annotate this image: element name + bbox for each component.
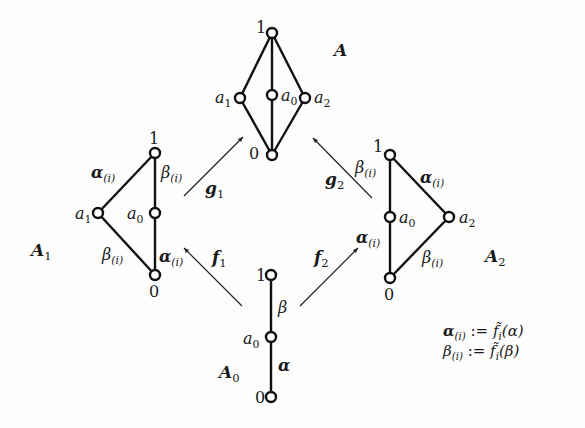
label-a0-top: 1 <box>256 268 266 284</box>
map-g2-sub: 2 <box>337 178 344 192</box>
label-a2-a2-sub: 2 <box>469 217 476 230</box>
label-a1-a1-sub: 1 <box>85 213 92 226</box>
map-label-g2: g2 <box>325 171 344 192</box>
label-a-a2: a2 <box>314 90 330 110</box>
edge-a1-mb-base: α <box>159 247 171 266</box>
edge-label-a2-mid-bottom: α(i) <box>356 230 380 250</box>
edge-a1-tl-sub: (i) <box>103 172 115 185</box>
edge-a2-mb-sub: (i) <box>368 237 380 250</box>
def-beta-lhs-sub: (i) <box>452 351 463 362</box>
lattice-a0-name-sub: 0 <box>232 371 239 385</box>
node-a-bottom <box>267 150 277 160</box>
map-f1-sub: 1 <box>219 256 226 270</box>
node-a2-a0 <box>385 212 395 222</box>
edge-a1-lb-sub: (i) <box>111 254 123 267</box>
node-a1-top <box>150 148 160 158</box>
label-a2-a0-base: a <box>399 208 409 227</box>
edge-label-a1-mid-bottom: α(i) <box>159 249 183 269</box>
map-g1-sub: 1 <box>217 187 224 201</box>
label-a2-a0: a0 <box>399 210 415 230</box>
node-a2-top <box>385 150 395 160</box>
label-a-a1-sub: 1 <box>225 97 232 110</box>
edge-label-a2-top-mid: β(i) <box>355 160 376 180</box>
arrow-f2 <box>300 248 358 306</box>
map-f2-sub: 2 <box>321 256 328 270</box>
edge-label-a1-top-mid: β(i) <box>161 165 182 185</box>
label-a-a1: a1 <box>215 90 231 110</box>
def-beta-lhs: β <box>443 342 452 360</box>
edge-a2-mb-base: α <box>356 228 368 247</box>
lattice-a2-name: A2 <box>485 248 506 269</box>
map-label-f2: f2 <box>314 249 329 270</box>
label-a0-a0: a0 <box>243 331 259 351</box>
lattice-a1-name: A1 <box>31 242 52 263</box>
label-a-a0-sub: 0 <box>291 95 298 108</box>
label-a-top: 1 <box>256 20 266 36</box>
node-a2-bottom <box>385 273 395 283</box>
node-a0-a0 <box>266 332 276 342</box>
label-a-bottom: 0 <box>249 146 259 162</box>
label-a0-a0-base: a <box>243 329 253 348</box>
definition-alpha: α(i) := f̃i(α) <box>443 324 524 342</box>
lattice-a2-name-base: A <box>485 246 498 266</box>
definition-beta: β(i) := f̃i(β) <box>443 344 519 362</box>
label-a1-a0-sub: 0 <box>137 213 144 226</box>
def-alpha-op: := <box>471 322 489 340</box>
edge-a2-tr-sub: (i) <box>432 177 444 190</box>
edge-label-a2-top-right: α(i) <box>420 170 444 190</box>
lattice-a0-name-base: A <box>219 362 232 382</box>
map-label-g1: g1 <box>205 180 224 201</box>
label-a2-bottom: 0 <box>384 287 394 303</box>
edge-label-a2-right-bottom: β(i) <box>422 250 443 270</box>
lattice-a-name: A <box>334 42 347 59</box>
label-a2-top: 1 <box>373 139 383 155</box>
label-a0-a0-sub: 0 <box>253 338 260 351</box>
label-a2-a2-base: a <box>459 208 469 227</box>
edge-a2-tm-sub: (i) <box>364 167 376 180</box>
def-beta-arg: (β) <box>499 342 519 360</box>
def-alpha-lhs: α <box>443 322 455 340</box>
label-a2-a2: a2 <box>459 210 475 230</box>
def-alpha-lhs-sub: (i) <box>455 331 466 342</box>
edge-a2-tm-base: β <box>355 158 364 177</box>
edge-a1-tl-base: α <box>91 163 103 182</box>
node-a-top <box>267 28 277 38</box>
edge-label-a0-lower: α <box>278 358 290 374</box>
label-a1-top: 1 <box>149 131 159 147</box>
def-alpha-arg: (α) <box>502 322 524 340</box>
label-a1-a0: a0 <box>127 206 143 226</box>
lattice-a1-name-sub: 1 <box>44 249 51 263</box>
label-a-a0-base: a <box>281 86 291 105</box>
lattice-a0-name: A0 <box>219 364 240 385</box>
map-g1-base: g <box>205 178 217 198</box>
edge-label-a1-left-bottom: β(i) <box>102 247 123 267</box>
node-a2-a2 <box>444 212 454 222</box>
morphism-arrows <box>184 137 372 306</box>
node-a0-top <box>266 270 276 280</box>
edge-a2-rb-sub: (i) <box>431 257 443 270</box>
node-a1-a0 <box>150 208 160 218</box>
lattice-a1-name-base: A <box>31 240 44 260</box>
lattice-diagram: 1 A a1 a0 a2 0 1 a1 a0 0 A1 α(i) β(i) β(… <box>0 0 585 428</box>
node-a-a1 <box>235 93 245 103</box>
label-a-a1-base: a <box>215 88 225 107</box>
map-label-f1: f1 <box>212 249 227 270</box>
edge-a1-tm-base: β <box>161 163 170 182</box>
node-a1-a1 <box>93 208 103 218</box>
edge-a1-tm-sub: (i) <box>170 172 182 185</box>
edge-label-a0-upper: β <box>278 300 287 316</box>
node-a-a2 <box>300 93 310 103</box>
edge-a1-mb-sub: (i) <box>171 256 183 269</box>
node-a-a0 <box>267 90 277 100</box>
label-a-a2-base: a <box>314 88 324 107</box>
label-a0-bottom: 0 <box>255 390 265 406</box>
label-a1-a1: a1 <box>75 206 91 226</box>
label-a1-a1-base: a <box>75 204 85 223</box>
map-g2-base: g <box>325 169 337 189</box>
node-a0-bottom <box>266 392 276 402</box>
label-a2-a0-sub: 0 <box>409 217 416 230</box>
label-a-a0: a0 <box>281 88 297 108</box>
edge-a1-lb-base: β <box>102 245 111 264</box>
label-a1-a0-base: a <box>127 204 137 223</box>
edge-a2-rb-base: β <box>422 248 431 267</box>
